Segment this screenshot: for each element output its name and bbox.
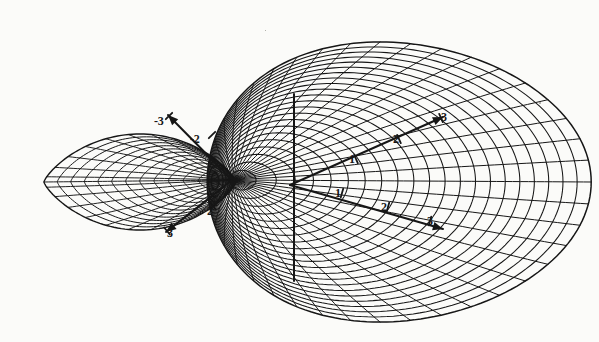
surface-figure: -3-232321321 (0, 0, 599, 342)
scan-speck-top (265, 30, 266, 31)
surface-wireframe-svg (0, 0, 599, 342)
axis-tick-label-upper-left-0: -3 (154, 115, 163, 127)
scan-speck-right (539, 102, 541, 104)
axis-tick-label-upper-right-0: 3 (441, 111, 447, 123)
axis-tick-label-lower-right-1: 2 (381, 201, 387, 213)
axis-tick-label-lower-left-1: 2 (207, 205, 213, 217)
axis-tick-label-lower-right-0: 3 (427, 215, 433, 227)
axis-tick-label-upper-left-1: -2 (190, 133, 199, 145)
axis-tick-label-lower-right-2: 1 (335, 187, 341, 199)
axis-tick-label-upper-right-1: 2 (393, 133, 399, 145)
axis-tick-label-lower-left-0: 3 (167, 227, 173, 239)
axis-tick-label-upper-right-2: 1 (349, 153, 355, 165)
